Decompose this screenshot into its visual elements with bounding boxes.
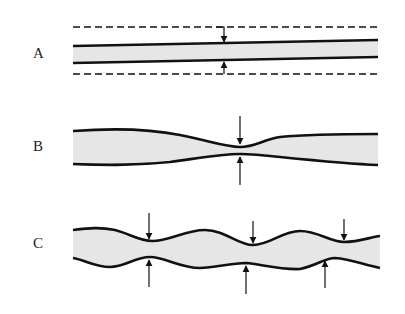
panel-b: B — [33, 116, 378, 185]
panel-label-a: A — [33, 45, 44, 61]
panel-a: A — [33, 27, 378, 74]
panel-label-b: B — [33, 138, 43, 154]
panel-c: C — [33, 213, 380, 294]
panel-label-c: C — [33, 235, 43, 251]
constriction-diagram: A B C — [0, 0, 405, 314]
arrow-down-icon — [216, 27, 224, 42]
